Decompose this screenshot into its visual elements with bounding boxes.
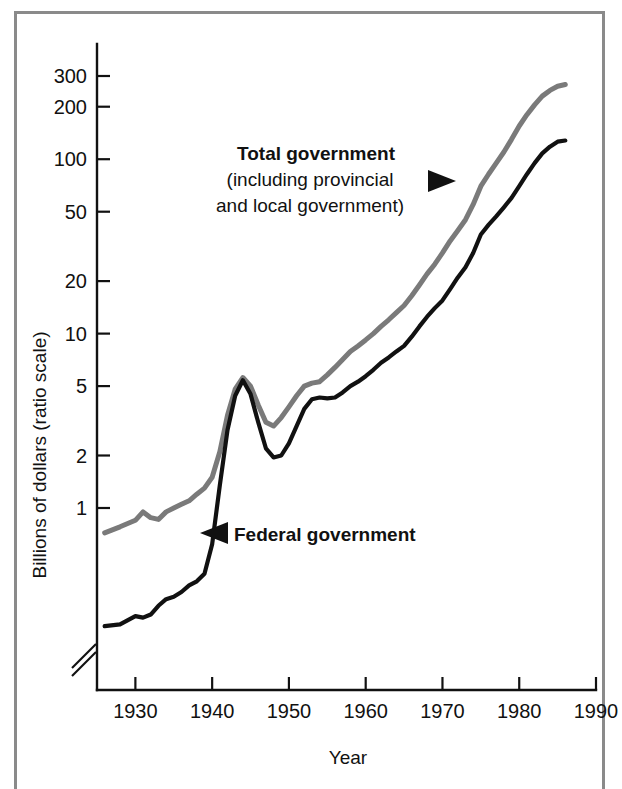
y-axis-tick-label: 10	[65, 323, 87, 345]
figure-root: 125102050100200300 193019401950196019701…	[0, 0, 622, 789]
x-axis-tick-label: 1930	[113, 700, 158, 722]
y-axis-ticks	[97, 76, 110, 508]
y-axis-tick-label: 2	[76, 445, 87, 467]
y-axis-tick-label: 50	[65, 201, 87, 223]
y-axis-tick-label: 200	[54, 96, 87, 118]
x-axis-tick-label: 1980	[497, 700, 542, 722]
x-axis-tick-labels: 1930194019501960197019801990	[113, 700, 618, 722]
y-axis-tick-label: 300	[54, 65, 87, 87]
x-axis-ticks	[135, 677, 596, 690]
axis-break-marker	[72, 644, 96, 676]
x-axis-tick-label: 1950	[267, 700, 312, 722]
x-axis-tick-label: 1960	[343, 700, 388, 722]
y-axis-tick-label: 100	[54, 148, 87, 170]
total-government-label-line2: (including provincial	[227, 169, 394, 190]
total-government-annotation: Total government (including provincial a…	[216, 143, 456, 216]
y-axis-tick-labels: 125102050100200300	[54, 65, 87, 519]
federal-government-label: Federal government	[234, 524, 416, 545]
arrow-right-icon	[428, 170, 456, 192]
x-axis-tick-label: 1970	[420, 700, 465, 722]
x-axis-title: Year	[329, 747, 368, 768]
y-axis-title: Billions of dollars (ratio scale)	[29, 331, 50, 578]
y-axis-tick-label: 5	[76, 375, 87, 397]
x-axis-tick-label: 1940	[190, 700, 235, 722]
federal-government-annotation: Federal government	[200, 522, 416, 545]
x-axis-tick-label: 1990	[574, 700, 619, 722]
y-axis-tick-label: 20	[65, 270, 87, 292]
y-axis-tick-label: 1	[76, 497, 87, 519]
total-government-label-line3: and local government)	[216, 195, 404, 216]
chart-plot-area: 125102050100200300 193019401950196019701…	[0, 0, 622, 789]
total-government-label-line1: Total government	[237, 143, 396, 164]
